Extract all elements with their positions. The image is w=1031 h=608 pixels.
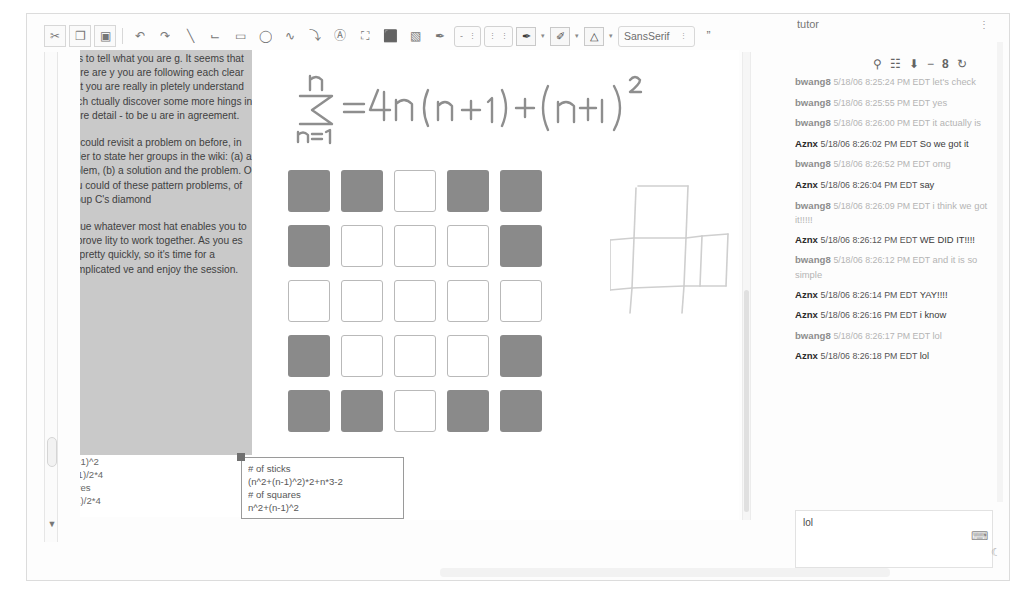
- textbox-line-sticks-formula: (n^2+(n-1)^2)*2+n*3-2: [248, 475, 397, 488]
- quote-button[interactable]: ”: [698, 25, 720, 47]
- chat-message-timestamp: 5/18/06 8:26:17 PM EDT: [833, 331, 932, 341]
- grid-cell-2-2[interactable]: [394, 280, 436, 322]
- grid-cell-2-0[interactable]: [288, 280, 330, 322]
- minimize-icon[interactable]: −: [927, 58, 934, 70]
- grid-cell-0-0[interactable]: [288, 170, 330, 212]
- grid-cell-4-2[interactable]: [394, 390, 436, 432]
- stroke-width-group[interactable]: - ⋮: [454, 26, 481, 47]
- font-family-select[interactable]: SansSerif ⋮: [618, 26, 695, 47]
- pen-tool-icon[interactable]: ✒: [429, 25, 451, 47]
- chat-message-timestamp: 5/18/06 8:25:55 PM EDT: [833, 98, 932, 108]
- chat-menu-icon[interactable]: ⋮: [979, 19, 989, 30]
- text-color-caret-icon[interactable]: ▾: [607, 32, 615, 40]
- grid-cell-4-0[interactable]: [288, 390, 330, 432]
- grid-cell-4-3[interactable]: [447, 390, 489, 432]
- fill-color-caret-icon[interactable]: ▾: [573, 32, 581, 40]
- copy-icon[interactable]: ❐: [69, 25, 91, 47]
- chat-message-body: i know: [920, 309, 947, 320]
- grid-cell-2-3[interactable]: [447, 280, 489, 322]
- image-tool-icon[interactable]: ⛶: [354, 25, 376, 47]
- chat-message-body: YAY!!!!: [920, 289, 948, 300]
- chat-message-body: it actually is: [933, 117, 981, 128]
- line-color-button[interactable]: ✒: [516, 27, 536, 46]
- chat-scrollbar[interactable]: [997, 42, 1003, 502]
- grid-cell-1-2[interactable]: [394, 225, 436, 267]
- stamp-tool-icon[interactable]: ⬛: [379, 25, 401, 47]
- chat-message: bwang8 5/18/06 8:26:17 PM EDT lol: [795, 328, 995, 343]
- grid-cell-0-3[interactable]: [447, 170, 489, 212]
- chat-message-author: bwang8: [795, 117, 833, 128]
- chat-message-author: Aznx: [795, 179, 821, 190]
- stroke-width-caret-icon[interactable]: ⋮: [467, 32, 478, 40]
- chat-message-author: Aznx: [795, 138, 821, 149]
- font-family-caret-icon[interactable]: ⋮: [678, 32, 689, 40]
- chat-message-body: So we got it: [920, 138, 969, 149]
- line-tool-icon[interactable]: ╲: [179, 25, 201, 47]
- freehand-tool-icon[interactable]: ∿: [279, 25, 301, 47]
- board-right-scrollbar-thumb[interactable]: [744, 290, 749, 512]
- cut-icon[interactable]: ✂: [44, 25, 66, 47]
- search-icon[interactable]: ⚲: [873, 58, 882, 70]
- stroke-style-group[interactable]: ⋮ ⋮: [484, 26, 513, 47]
- send-message-icon[interactable]: ⌨: [971, 529, 988, 543]
- stroke-style-caret-icon-1[interactable]: ⋮: [487, 32, 498, 40]
- grid-cell-3-2[interactable]: [394, 335, 436, 377]
- paste-icon[interactable]: ▣: [94, 25, 116, 47]
- redo-icon[interactable]: ↷: [154, 25, 176, 47]
- chat-message-timestamp: 5/18/06 8:26:09 PM EDT: [833, 201, 932, 211]
- polyline-tool-icon[interactable]: ⌙: [204, 25, 226, 47]
- grid-cell-1-4[interactable]: [500, 225, 542, 267]
- board-horizontal-scrollbar[interactable]: [440, 568, 890, 577]
- notes-text-panel[interactable]: r us to tell what you are g. It seems th…: [80, 50, 252, 455]
- grid-cell-2-1[interactable]: [341, 280, 383, 322]
- grid-cell-1-1[interactable]: [341, 225, 383, 267]
- grid-cell-0-1[interactable]: [341, 170, 383, 212]
- chat-message-body: yes: [933, 97, 948, 108]
- chat-message: bwang8 5/18/06 8:26:00 PM EDT it actuall…: [795, 115, 995, 130]
- grid-cell-0-2[interactable]: [394, 170, 436, 212]
- ellipse-tool-icon[interactable]: ◯: [254, 25, 276, 47]
- board-right-scrollbar[interactable]: [742, 52, 751, 520]
- grid-cell-0-4[interactable]: [500, 170, 542, 212]
- grid-cell-3-1[interactable]: [341, 335, 383, 377]
- text-color-button[interactable]: △: [584, 27, 604, 46]
- grid-cell-3-3[interactable]: [447, 335, 489, 377]
- curve-tool-icon[interactable]: ⤵: [304, 25, 326, 47]
- formula-textbox[interactable]: # of sticks (n^2+(n-1)^2)*2+n*3-2 # of s…: [241, 457, 404, 519]
- textbox-resize-handle[interactable]: [237, 453, 245, 461]
- application-window: ✂ ❐ ▣ ↶ ↷ ╲ ⌙ ▭ ◯ ∿ ⤵ Ⓐ ⛶ ⬛ ▧ ✒ - ⋮ ⋮ ⋮ …: [0, 0, 1031, 608]
- chat-message: Aznx 5/18/06 8:26:02 PM EDT So we got it: [795, 136, 995, 151]
- whiteboard-canvas[interactable]: [252, 50, 739, 520]
- chat-message-timestamp: 5/18/06 8:26:04 PM EDT: [821, 180, 920, 190]
- chat-message-list[interactable]: bwang8 5/18/06 8:25:24 PM EDT let's chec…: [795, 74, 995, 504]
- text-tool-icon[interactable]: Ⓐ: [329, 25, 351, 47]
- eraser-tool-icon[interactable]: ▧: [404, 25, 426, 47]
- refresh-icon[interactable]: ↻: [957, 58, 967, 70]
- person-icon[interactable]: 8: [942, 58, 949, 70]
- undo-icon[interactable]: ↶: [129, 25, 151, 47]
- chat-message-author: bwang8: [795, 330, 833, 341]
- fill-color-button[interactable]: ✐: [550, 27, 570, 46]
- left-scrollbar-thumb[interactable]: [47, 437, 57, 467]
- grid-cell-2-4[interactable]: [500, 280, 542, 322]
- grid-cell-1-0[interactable]: [288, 225, 330, 267]
- chat-message-author: bwang8: [795, 200, 833, 211]
- chat-input[interactable]: lol ⌨: [795, 510, 993, 568]
- stroke-style-caret-icon-2[interactable]: ⋮: [499, 32, 510, 40]
- left-vertical-scrollbar[interactable]: ▼: [44, 52, 58, 542]
- grid-cell-3-4[interactable]: [500, 335, 542, 377]
- squares-grid[interactable]: [288, 170, 544, 436]
- grid-cell-4-4[interactable]: [500, 390, 542, 432]
- download-icon[interactable]: ⬇: [909, 58, 919, 70]
- line-color-caret-icon[interactable]: ▾: [539, 32, 547, 40]
- plus-shape-sketch: [610, 170, 735, 315]
- grid-cell-4-1[interactable]: [341, 390, 383, 432]
- rectangle-tool-icon[interactable]: ▭: [229, 25, 251, 47]
- formula-text-strip[interactable]: n-1)^2 +1)/2*4 ares -1)/2*4: [80, 455, 252, 517]
- grid-cell-1-3[interactable]: [447, 225, 489, 267]
- chat-message: Aznx 5/18/06 8:26:16 PM EDT i know: [795, 307, 995, 322]
- grid-cell-3-0[interactable]: [288, 335, 330, 377]
- scroll-down-arrow-icon[interactable]: ▼: [45, 517, 59, 531]
- chat-message-timestamp: 5/18/06 8:26:02 PM EDT: [821, 139, 920, 149]
- filmstrip-icon[interactable]: ☷: [890, 58, 901, 70]
